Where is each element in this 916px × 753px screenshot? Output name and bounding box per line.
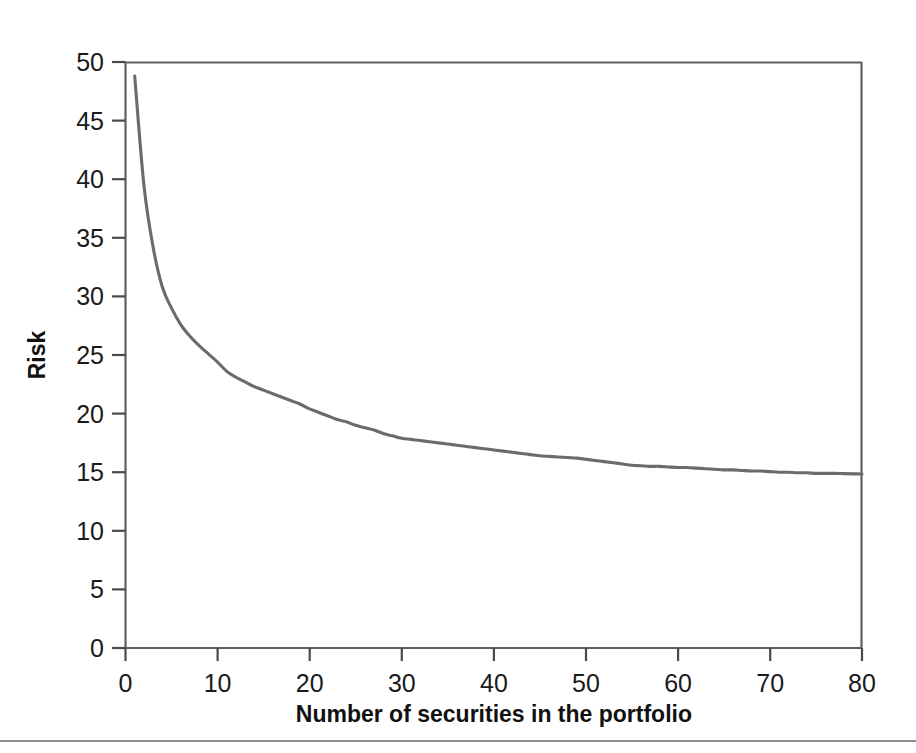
y-tick-40: 40: [76, 165, 125, 193]
y-tick-45: 45: [76, 107, 125, 135]
x-tick-50: 50: [572, 648, 600, 697]
y-tick-35: 35: [76, 224, 125, 252]
y-tick-label: 45: [76, 107, 104, 135]
x-tick-label: 0: [119, 669, 133, 697]
y-axis-title: Risk: [24, 331, 50, 380]
x-tick-label: 30: [388, 669, 416, 697]
y-tick-15: 15: [76, 458, 125, 486]
x-axis-ticks: 0 10 20 30 40 50: [119, 648, 876, 697]
y-tick-10: 10: [76, 517, 125, 545]
x-tick-60: 60: [664, 648, 692, 697]
y-tick-label: 40: [76, 165, 104, 193]
y-tick-50: 50: [76, 48, 125, 76]
y-tick-label: 25: [76, 341, 104, 369]
y-tick-label: 15: [76, 458, 104, 486]
y-tick-label: 5: [90, 575, 104, 603]
x-tick-80: 80: [848, 648, 876, 697]
x-tick-30: 30: [388, 648, 416, 697]
x-tick-label: 50: [572, 669, 600, 697]
x-tick-40: 40: [480, 648, 508, 697]
y-tick-0: 0: [90, 634, 125, 662]
y-tick-label: 20: [76, 400, 104, 428]
x-tick-70: 70: [756, 648, 784, 697]
x-tick-label: 40: [480, 669, 508, 697]
y-axis-ticks: 50 45 40 35 30 25: [76, 48, 125, 662]
y-tick-label: 0: [90, 634, 104, 662]
chart-figure: 50 45 40 35 30 25: [0, 0, 916, 753]
risk-curve: [135, 76, 862, 474]
y-tick-label: 30: [76, 282, 104, 310]
y-tick-20: 20: [76, 400, 125, 428]
y-tick-label: 35: [76, 224, 104, 252]
y-tick-label: 50: [76, 48, 104, 76]
x-tick-label: 10: [204, 669, 232, 697]
y-tick-30: 30: [76, 282, 125, 310]
x-tick-0: 0: [119, 648, 133, 697]
risk-diversification-line-chart: 50 45 40 35 30 25: [0, 0, 916, 753]
x-tick-10: 10: [204, 648, 232, 697]
y-tick-label: 10: [76, 517, 104, 545]
y-tick-5: 5: [90, 575, 125, 603]
plot-frame: [126, 62, 863, 648]
x-tick-label: 80: [848, 669, 876, 697]
y-tick-25: 25: [76, 341, 125, 369]
x-tick-label: 70: [756, 669, 784, 697]
x-tick-label: 60: [664, 669, 692, 697]
x-axis-title: Number of securities in the portfolio: [296, 701, 692, 727]
x-tick-20: 20: [296, 648, 324, 697]
x-tick-label: 20: [296, 669, 324, 697]
